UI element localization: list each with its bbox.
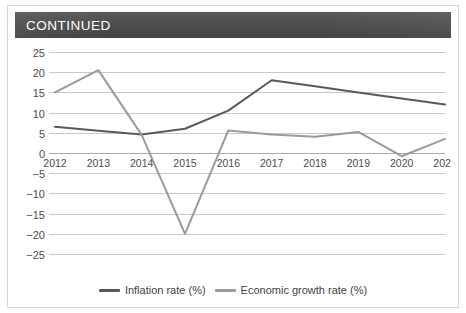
x-axis-tick-label: 2013 [87, 157, 111, 169]
x-axis-tick-label: 2015 [173, 157, 197, 169]
header-bar: CONTINUED [15, 12, 451, 38]
y-axis-tick-label: 5 [39, 128, 45, 140]
x-axis-tick-label: 2017 [260, 157, 284, 169]
y-axis-tick-label: 25 [33, 47, 45, 59]
y-axis-tick-label: 20 [33, 67, 45, 79]
x-axis-tick-label: 2016 [217, 157, 241, 169]
gridlines-group [49, 53, 445, 255]
figure-container: CONTINUED 2520151050−5−10−15−20−25 20122… [0, 0, 466, 313]
y-axis-tick-label: −15 [26, 209, 45, 221]
page-title: CONTINUED [15, 18, 111, 33]
line-swatch-icon [99, 289, 120, 292]
y-axis-tick-label: 10 [33, 108, 45, 120]
y-axis-tick-label: −20 [26, 229, 45, 241]
x-axis-tick-label: 2012 [43, 157, 67, 169]
series-line-inflation-rate [55, 80, 445, 134]
x-axis-tick-label: 2020 [390, 157, 414, 169]
y-axis-tick-label: −5 [32, 168, 45, 180]
y-axis-tick-label: 15 [33, 87, 45, 99]
x-axis-tick-label: 2014 [130, 157, 154, 169]
x-axis-tick-label: 2018 [303, 157, 327, 169]
y-axis-tick-labels: 2520151050−5−10−15−20−25 [26, 47, 45, 261]
x-axis-tick-labels: 2012201320142015201620172018201920202021 [43, 157, 451, 169]
series-group [55, 70, 445, 234]
x-axis-tick-label: 2021 [433, 157, 451, 169]
legend-label: Inflation rate (%) [125, 284, 206, 296]
line-chart: 2520151050−5−10−15−20−25 201220132014201… [15, 44, 451, 302]
y-axis-tick-label: −10 [26, 188, 45, 200]
x-axis-tick-label: 2019 [347, 157, 371, 169]
legend-item-economic-growth-rate: Economic growth rate (%) [215, 284, 368, 296]
chart-plot-area: 2520151050−5−10−15−20−25 201220132014201… [15, 44, 451, 302]
legend-item-inflation-rate: Inflation rate (%) [99, 284, 206, 296]
chart-legend: Inflation rate (%) Economic growth rate … [15, 280, 451, 300]
legend-label: Economic growth rate (%) [241, 284, 368, 296]
y-axis-tick-label: −25 [26, 249, 45, 261]
line-swatch-icon [215, 289, 236, 292]
